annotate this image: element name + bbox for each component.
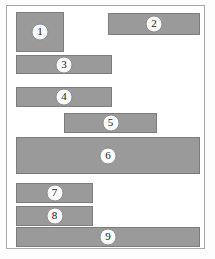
plot-frame: 1 2 3 4 5 6 7 8 9 bbox=[6, 5, 205, 249]
gantt-bar-7[interactable]: 7 bbox=[16, 183, 93, 203]
gantt-bar-9[interactable]: 9 bbox=[16, 227, 200, 247]
gantt-bar-4[interactable]: 4 bbox=[16, 87, 112, 107]
gantt-bar-8[interactable]: 8 bbox=[16, 206, 93, 226]
gantt-chart-figure: 1 2 3 4 5 6 7 8 9 bbox=[0, 0, 215, 259]
bar-label-badge: 8 bbox=[46, 208, 63, 225]
gantt-bar-2[interactable]: 2 bbox=[108, 13, 200, 35]
bar-label-badge: 5 bbox=[102, 115, 119, 132]
gantt-bar-5[interactable]: 5 bbox=[64, 113, 157, 133]
bar-label-badge: 4 bbox=[56, 89, 73, 106]
bar-label-badge: 1 bbox=[32, 24, 49, 41]
bar-label-badge: 7 bbox=[46, 185, 63, 202]
bar-label-badge: 6 bbox=[100, 147, 117, 164]
bar-label-badge: 9 bbox=[100, 229, 117, 246]
bar-label-badge: 3 bbox=[56, 56, 73, 73]
bar-label-badge: 2 bbox=[146, 16, 163, 33]
gantt-bar-1[interactable]: 1 bbox=[16, 12, 64, 52]
gantt-bar-3[interactable]: 3 bbox=[16, 55, 112, 74]
gantt-bar-6[interactable]: 6 bbox=[16, 137, 200, 174]
